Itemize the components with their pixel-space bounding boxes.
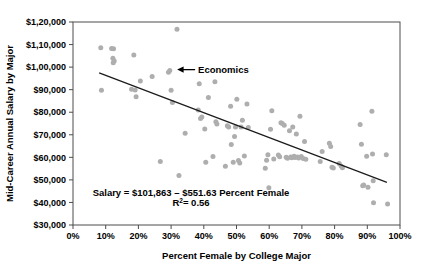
data-point xyxy=(240,118,245,123)
data-point xyxy=(384,152,389,157)
data-point xyxy=(365,185,370,190)
data-point xyxy=(287,128,292,133)
x-tick-label: 70% xyxy=(293,231,311,241)
y-tick-label: $1,00,000 xyxy=(26,62,66,72)
scatter-points xyxy=(98,27,390,207)
x-axis-tick-marks xyxy=(73,225,400,229)
data-point xyxy=(370,151,375,156)
data-point xyxy=(158,159,163,164)
data-point xyxy=(183,131,188,136)
r-squared-value: = 0.56 xyxy=(183,197,210,208)
y-tick-label: $1,20,000 xyxy=(26,17,66,27)
data-point xyxy=(297,114,302,119)
data-point xyxy=(167,68,172,73)
data-point xyxy=(269,108,274,113)
data-point xyxy=(385,202,390,207)
data-point xyxy=(229,142,234,147)
x-tick-label: 100% xyxy=(388,231,411,241)
data-point xyxy=(371,200,376,205)
x-tick-label: 40% xyxy=(195,231,213,241)
data-point xyxy=(271,156,276,161)
data-point xyxy=(294,132,299,137)
data-point xyxy=(369,109,374,114)
annotation-label: Economics xyxy=(198,64,249,75)
data-point xyxy=(111,46,116,51)
data-point xyxy=(290,124,295,129)
y-tick-label: $80,000 xyxy=(33,107,66,117)
x-tick-label: 80% xyxy=(326,231,344,241)
y-tick-label: $60,000 xyxy=(33,153,66,163)
data-point xyxy=(138,79,143,84)
data-point xyxy=(134,94,139,99)
data-point xyxy=(99,88,104,93)
data-point xyxy=(358,122,363,127)
data-point xyxy=(282,123,287,128)
data-point xyxy=(232,134,237,139)
data-point xyxy=(268,127,273,132)
data-point xyxy=(328,144,333,149)
data-point xyxy=(212,79,217,84)
data-point xyxy=(364,154,369,159)
y-tick-label: $1,10,000 xyxy=(26,40,66,50)
data-point xyxy=(263,166,268,171)
data-point xyxy=(214,121,219,126)
chart-figure: $1,20,000$1,10,000$1,00,000$90,000$80,00… xyxy=(0,0,424,269)
x-tick-label: 0% xyxy=(66,231,79,241)
data-point xyxy=(197,81,202,86)
data-point xyxy=(228,104,233,109)
data-point xyxy=(199,114,204,119)
data-point xyxy=(174,27,179,32)
x-tick-label: 10% xyxy=(97,231,115,241)
data-point xyxy=(303,157,308,162)
data-point xyxy=(318,159,323,164)
regression-equation: Salary = $101,863 – $551.63 Percent Fema… xyxy=(93,187,290,208)
x-axis-tick-labels: 0%10%20%30%40%50%60%70%80%90%100% xyxy=(66,231,411,241)
data-point xyxy=(371,178,376,183)
y-tick-label: $70,000 xyxy=(33,130,66,140)
data-point xyxy=(361,183,366,188)
data-point xyxy=(169,88,174,93)
data-point xyxy=(202,126,207,131)
data-point xyxy=(237,160,242,165)
x-tick-label: 30% xyxy=(162,231,180,241)
scatter-plot: $1,20,000$1,10,000$1,00,000$90,000$80,00… xyxy=(0,0,424,269)
y-tick-label: $90,000 xyxy=(33,85,66,95)
data-point xyxy=(223,164,228,169)
y-axis-tick-marks xyxy=(69,22,73,225)
trend-line xyxy=(99,73,387,182)
data-point xyxy=(331,165,336,170)
data-point xyxy=(206,95,211,100)
x-tick-label: 60% xyxy=(260,231,278,241)
data-point xyxy=(302,139,307,144)
x-tick-label: 20% xyxy=(129,231,147,241)
y-tick-label: $30,000 xyxy=(33,220,66,230)
data-point xyxy=(203,160,208,165)
data-point xyxy=(244,102,249,107)
data-point xyxy=(320,149,325,154)
y-tick-label: $50,000 xyxy=(33,175,66,185)
data-point xyxy=(242,153,247,158)
data-point xyxy=(176,173,181,178)
data-point xyxy=(265,152,270,157)
x-axis-title: Percent Female by College Major xyxy=(162,250,311,261)
x-tick-label: 50% xyxy=(227,231,245,241)
data-point xyxy=(150,74,155,79)
data-point xyxy=(210,154,215,159)
y-axis-title: Mid-Career Annual Salary by Major xyxy=(4,45,15,202)
data-point xyxy=(264,158,269,163)
data-point xyxy=(111,60,116,65)
y-tick-label: $40,000 xyxy=(33,198,66,208)
data-point xyxy=(98,45,103,50)
data-point xyxy=(133,87,138,92)
data-point xyxy=(277,154,282,159)
x-tick-label: 90% xyxy=(358,231,376,241)
data-point xyxy=(234,97,239,102)
y-axis-tick-labels: $1,20,000$1,10,000$1,00,000$90,000$80,00… xyxy=(26,17,66,230)
data-point xyxy=(226,125,231,130)
data-point xyxy=(131,52,136,57)
data-point xyxy=(231,160,236,165)
data-point xyxy=(359,142,364,147)
annotation-arrow-head xyxy=(177,66,184,72)
economics-annotation: Economics xyxy=(177,64,249,75)
r-squared-line: R2= 0.56 xyxy=(172,197,209,208)
